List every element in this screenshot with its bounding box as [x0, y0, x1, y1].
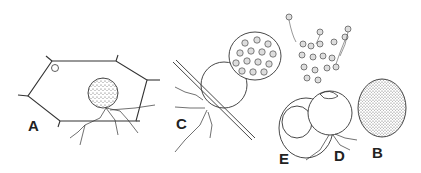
label-d: D: [334, 147, 345, 164]
panel-b: [358, 79, 406, 137]
panel-a: [18, 55, 160, 145]
label-b: B: [372, 144, 383, 161]
panel-c: [173, 32, 281, 152]
label-c: C: [176, 115, 187, 132]
label-e: E: [279, 150, 289, 167]
label-a: A: [28, 117, 39, 134]
illustration: A C E D B: [0, 0, 421, 173]
figure-drawing: [0, 0, 421, 173]
